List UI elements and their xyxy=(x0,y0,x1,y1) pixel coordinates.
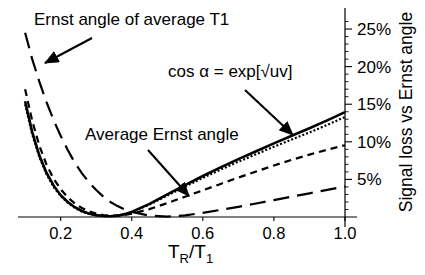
annotation-label: Ernst angle of average T1 xyxy=(34,10,229,29)
curve-dotted-curve xyxy=(25,104,345,216)
annotation-label: cos α = exp[√uv] xyxy=(168,62,293,81)
x-tick-label: 0.6 xyxy=(191,224,214,242)
annotation-arrow xyxy=(45,38,92,63)
y-tick-label: 10% xyxy=(357,133,391,152)
chart-figure: 0.20.40.60.81.05%10%15%20%25%TR/T1Signal… xyxy=(0,0,425,275)
y-tick-label: 20% xyxy=(357,58,391,77)
annotation-label: Average Ernst angle xyxy=(85,125,239,144)
annotation-arrow xyxy=(148,150,189,196)
signal-loss-chart: 0.20.40.60.81.05%10%15%20%25%TR/T1Signal… xyxy=(0,0,425,275)
y-tick-label: 15% xyxy=(357,95,391,114)
annotation-arrow xyxy=(245,90,293,135)
x-axis-label: TR/T1 xyxy=(168,241,213,266)
svg-text:TR/T1: TR/T1 xyxy=(168,241,213,266)
x-tick-label: 1.0 xyxy=(334,224,357,242)
y-axis-label: Signal loss vs Ernst angle xyxy=(396,12,416,212)
x-tick-label: 0.8 xyxy=(262,224,285,242)
curve-short-dashed-curve xyxy=(25,89,345,215)
y-tick-label: 5% xyxy=(357,170,382,189)
x-tick-label: 0.2 xyxy=(49,224,72,242)
annotation-ernst-angle-of-average-t1: Ernst angle of average T1 xyxy=(34,10,229,63)
annotation-average-ernst-angle: Average Ernst angle xyxy=(85,125,239,196)
y-tick-label: 25% xyxy=(357,20,391,39)
x-tick-label: 0.4 xyxy=(120,224,143,242)
